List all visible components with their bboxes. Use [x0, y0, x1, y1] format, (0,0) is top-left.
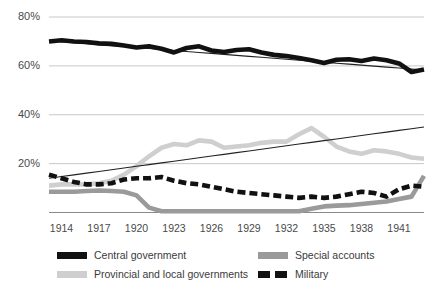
- legend-item[interactable]: Provincial and local governments: [57, 269, 248, 280]
- x-axis-tick-label: 1935: [307, 222, 341, 234]
- series-line: [49, 175, 424, 198]
- chart-legend: Central governmentSpecial accountsProvin…: [0, 246, 430, 288]
- y-axis-tick-label: 20%: [4, 157, 40, 169]
- central-government-swatch: [57, 252, 87, 259]
- series-line: [49, 40, 424, 72]
- military-swatch: [258, 271, 288, 278]
- y-axis-tick-label: 60%: [4, 59, 40, 71]
- x-axis-tick-label: 1920: [120, 222, 154, 234]
- x-axis-tick-label: 1941: [382, 222, 416, 234]
- legend-item[interactable]: Military: [258, 269, 328, 280]
- legend-label: Military: [295, 269, 328, 280]
- x-axis-tick-label: 1923: [157, 222, 191, 234]
- legend-label: Provincial and local governments: [94, 269, 248, 280]
- special-accounts-swatch: [258, 252, 288, 259]
- x-axis-tick-label: 1929: [232, 222, 266, 234]
- x-axis-tick-label: 1917: [82, 222, 116, 234]
- legend-label: Special accounts: [295, 250, 374, 261]
- x-axis-tick-label: 1926: [195, 222, 229, 234]
- chart-container: 20%40%60%80% 191419171920192319261929193…: [0, 0, 430, 293]
- y-axis-tick-label: 80%: [4, 10, 40, 22]
- x-axis-tick-label: 1932: [270, 222, 304, 234]
- legend-item[interactable]: Central government: [57, 250, 186, 261]
- y-axis-tick-label: 40%: [4, 108, 40, 120]
- x-axis-tick-label: 1938: [345, 222, 379, 234]
- provincial-local-governments-swatch: [57, 271, 87, 278]
- x-axis-tick-label: 1914: [45, 222, 79, 234]
- legend-item[interactable]: Special accounts: [258, 250, 374, 261]
- legend-label: Central government: [94, 250, 186, 261]
- series-line: [49, 128, 424, 185]
